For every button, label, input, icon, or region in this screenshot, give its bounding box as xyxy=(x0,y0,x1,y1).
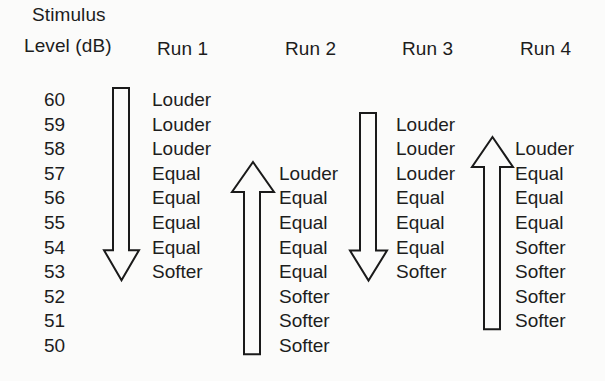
run-4-response-57db: Equal xyxy=(515,164,564,184)
run-2-response-56db: Equal xyxy=(279,188,328,208)
stimulus-level-58: 58 xyxy=(44,139,78,159)
run-header-4: Run 4 xyxy=(520,36,571,61)
arrow-outline xyxy=(232,162,274,354)
run-1-response-60db: Louder xyxy=(152,90,211,110)
arrow-outline xyxy=(350,113,387,281)
run-1-arrow-down xyxy=(94,78,149,290)
run-4-arrow-up xyxy=(462,127,523,339)
run-4-response-52db: Softer xyxy=(515,287,566,307)
run-3-arrow-down xyxy=(340,103,397,291)
run-4-response-55db: Equal xyxy=(515,213,564,233)
run-4-response-53db: Softer xyxy=(515,262,566,282)
run-4-response-54db: Softer xyxy=(515,238,566,258)
stimulus-level-53: 53 xyxy=(44,262,78,282)
run-2-response-54db: Equal xyxy=(279,238,328,258)
run-1-response-55db: Equal xyxy=(152,213,201,233)
run-2-response-53db: Equal xyxy=(279,262,328,282)
run-1-response-53db: Softer xyxy=(152,262,203,282)
run-2-response-52db: Softer xyxy=(279,287,330,307)
run-3-response-54db: Equal xyxy=(396,238,445,258)
stimulus-level-55: 55 xyxy=(44,213,78,233)
run-1-response-54db: Equal xyxy=(152,238,201,258)
run-3-response-55db: Equal xyxy=(396,213,445,233)
run-1-response-57db: Equal xyxy=(152,164,201,184)
stimulus-level-60: 60 xyxy=(44,90,78,110)
method-of-limits-figure: Stimulus Level (dB) 60595857565554535251… xyxy=(0,0,605,381)
stimulus-level-52: 52 xyxy=(44,287,78,307)
stimulus-level-56: 56 xyxy=(44,188,78,208)
run-3-response-59db: Louder xyxy=(396,115,455,135)
stimulus-level-50: 50 xyxy=(44,336,78,356)
run-3-response-58db: Louder xyxy=(396,139,455,159)
run-3-response-57db: Louder xyxy=(396,164,455,184)
run-2-response-50db: Softer xyxy=(279,336,330,356)
run-1-response-58db: Louder xyxy=(152,139,211,159)
stimulus-level-axis-title-line2: Level (dB) xyxy=(24,33,112,58)
run-4-response-51db: Softer xyxy=(515,311,566,331)
run-header-3: Run 3 xyxy=(402,36,453,61)
run-header-1: Run 1 xyxy=(157,36,208,61)
run-2-response-55db: Equal xyxy=(279,213,328,233)
run-header-2: Run 2 xyxy=(285,36,336,61)
stimulus-level-51: 51 xyxy=(44,311,78,331)
run-2-response-51db: Softer xyxy=(279,311,330,331)
run-2-arrow-up xyxy=(222,152,284,364)
stimulus-level-59: 59 xyxy=(44,115,78,135)
run-1-response-59db: Louder xyxy=(152,115,211,135)
stimulus-level-axis-title-line1: Stimulus xyxy=(32,2,106,27)
stimulus-level-54: 54 xyxy=(44,238,78,258)
run-4-response-56db: Equal xyxy=(515,188,564,208)
run-3-response-53db: Softer xyxy=(396,262,447,282)
stimulus-level-57: 57 xyxy=(44,164,78,184)
arrow-outline xyxy=(472,137,513,329)
run-1-response-56db: Equal xyxy=(152,188,201,208)
run-3-response-56db: Equal xyxy=(396,188,445,208)
run-4-response-58db: Louder xyxy=(515,139,574,159)
run-2-response-57db: Louder xyxy=(279,164,338,184)
arrow-outline xyxy=(104,88,139,280)
